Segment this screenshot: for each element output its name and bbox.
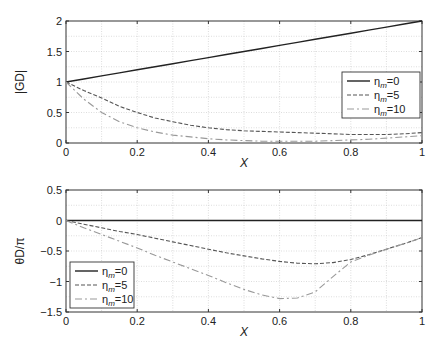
y-tick-label: 1.5	[47, 46, 62, 58]
y-tick-label: 0	[56, 215, 62, 227]
x-tick-label: 0.2	[130, 146, 145, 158]
x-tick-label: 0.8	[343, 146, 358, 158]
series-line	[66, 221, 422, 264]
chart-panel-1: 00.20.40.60.8100.511.52X|GD|ηm=0ηm=5ηm=1…	[13, 15, 425, 170]
x-tick-label: 0	[63, 315, 69, 327]
y-tick-label: −1	[49, 276, 62, 288]
y-axis-label: θD/π	[13, 238, 27, 265]
x-tick-label: 0.6	[272, 146, 287, 158]
y-tick-label: 0.5	[47, 184, 62, 196]
legend: ηm=0ηm=5ηm=10	[70, 262, 134, 308]
y-tick-label: 2	[56, 15, 62, 27]
x-axis-label: X	[239, 325, 249, 339]
y-tick-label: 0.5	[47, 107, 62, 119]
x-axis-label: X	[239, 156, 249, 170]
y-axis-label: |GD|	[13, 70, 27, 94]
y-tick-label: −1.5	[40, 306, 62, 318]
x-tick-label: 1	[419, 146, 425, 158]
x-tick-label: 0	[63, 146, 69, 158]
y-tick-label: 0	[56, 137, 62, 149]
x-tick-label: 0.4	[201, 146, 216, 158]
x-tick-label: 0.8	[343, 315, 358, 327]
x-tick-label: 1	[419, 315, 425, 327]
legend: ηm=0ηm=5ηm=10	[342, 72, 420, 118]
y-tick-label: 1	[56, 76, 62, 88]
x-tick-label: 0.2	[130, 315, 145, 327]
x-tick-label: 0.4	[201, 315, 216, 327]
x-tick-label: 0.6	[272, 315, 287, 327]
figure: 00.20.40.60.8100.511.52X|GD|ηm=0ηm=5ηm=1…	[0, 0, 440, 359]
chart-panel-2: 00.20.40.60.81−1.5−1−0.500.5XθD/πηm=0ηm=…	[13, 184, 425, 339]
y-tick-label: −0.5	[40, 245, 62, 257]
